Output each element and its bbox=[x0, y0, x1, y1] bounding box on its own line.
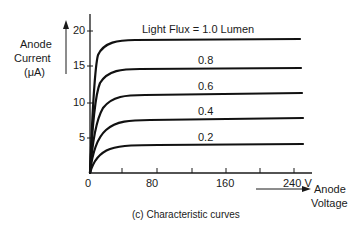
x-axis-title-line2: Voltage bbox=[311, 197, 348, 210]
x-axis-title-line1: Anode bbox=[314, 183, 346, 196]
curve-label-0.8: 0.8 bbox=[198, 54, 213, 67]
y-axis-arrow-icon bbox=[63, 20, 69, 74]
y-tick-label-15: 15 bbox=[73, 59, 85, 72]
figure-caption: (c) Characteristic curves bbox=[132, 208, 240, 221]
y-tick-label-10: 10 bbox=[73, 96, 85, 109]
curve-flux-1.0 bbox=[90, 39, 300, 173]
x-tick-label-0: 0 bbox=[85, 177, 91, 190]
curve-label-1.0: Light Flux = 1.0 Lumen bbox=[142, 23, 254, 36]
curve-flux-0.6 bbox=[90, 93, 302, 173]
x-tick-label-160: 160 bbox=[216, 177, 234, 190]
y-axis-title-line2: Current bbox=[14, 52, 51, 65]
y-axis-title-line3: (μA) bbox=[24, 66, 45, 79]
x-tick-label-240: 240 V bbox=[283, 177, 312, 190]
y-tick-label-5: 5 bbox=[79, 131, 85, 144]
y-axis-title-line1: Anode bbox=[20, 38, 52, 51]
x-ticks bbox=[122, 168, 294, 173]
y-tick-label-20: 20 bbox=[73, 24, 85, 37]
curve-label-0.4: 0.4 bbox=[198, 105, 213, 118]
x-tick-label-80: 80 bbox=[146, 177, 158, 190]
curve-label-0.6: 0.6 bbox=[198, 80, 213, 93]
curve-label-0.2: 0.2 bbox=[198, 131, 213, 144]
